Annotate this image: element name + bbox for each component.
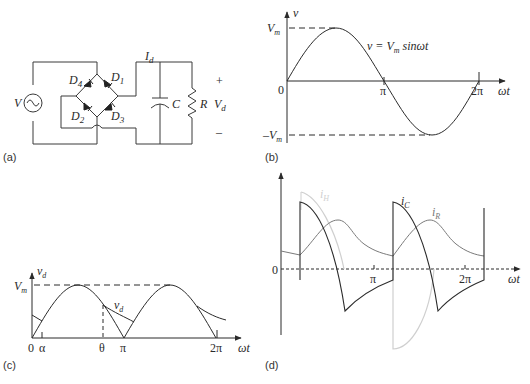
wire-source-top [33,62,97,85]
minus-label: – [215,125,223,139]
caption-c: (c) [3,359,16,371]
b-x-label: ωt [498,84,510,98]
plus-label: + [216,74,223,88]
c-alpha-label: α [39,341,46,355]
ic-curve [300,202,484,311]
panel-c-rectified-chart [32,273,241,338]
c-theta-label: θ [99,341,105,355]
source-label: V [14,96,23,110]
figure-canvas: V D4 D1 D2 D3 Id C R + Vd – (a) v Vm –Vm… [0,0,530,384]
d3-label: D3 [110,109,125,125]
d4-label: D4 [68,73,83,89]
ac-source-icon [24,94,42,112]
c-2pi-label: 2π [210,341,222,355]
wire-source-bottom [33,121,97,144]
ih-label: iH [320,187,330,203]
b-y-label: v [293,6,299,20]
b-origin-label: 0 [278,83,284,97]
b-neg-vm-label: –Vm [262,128,282,144]
voltage-label: Vd [214,97,226,113]
caption-d: (d) [265,359,278,371]
ic-label: iC [401,194,410,210]
c-vm-label: Vm [14,279,27,295]
c-origin-label: 0 [28,341,34,355]
capacitor-label: C [172,97,181,111]
d-origin-label: 0 [272,263,278,277]
d-pi-label: π [370,272,376,286]
b-2pi-label: 2π [471,84,483,98]
b-vm-label: Vm [267,21,280,37]
caption-b: (b) [265,151,278,163]
vd-discharge-curve [32,315,42,321]
d1-label: D1 [110,70,124,86]
caption-a: (a) [3,151,16,163]
ir-label: iR [432,205,440,221]
current-label: Id [144,49,154,65]
resistor-label: R [199,97,208,111]
b-pi-label: π [380,84,386,98]
b-equation: v = Vm sinωt [367,39,429,55]
c-pi-label: π [120,341,126,355]
c-y-label: vd [37,264,47,280]
d-2pi-label: 2π [459,272,471,286]
ih-curve [301,192,434,349]
d-x-label: ωt [508,272,520,286]
wire-bridge-right [118,62,192,96]
wire-bridge-bottom-right [102,128,192,144]
ir-curve [281,220,484,256]
rectified-sine-curve [32,285,216,338]
resistor-icon [188,88,196,118]
c-x-label: ωt [238,341,250,355]
panel-b-sine-chart [287,12,505,143]
c-vd-curve-label: vd [114,298,124,314]
d2-label: D2 [70,109,85,125]
